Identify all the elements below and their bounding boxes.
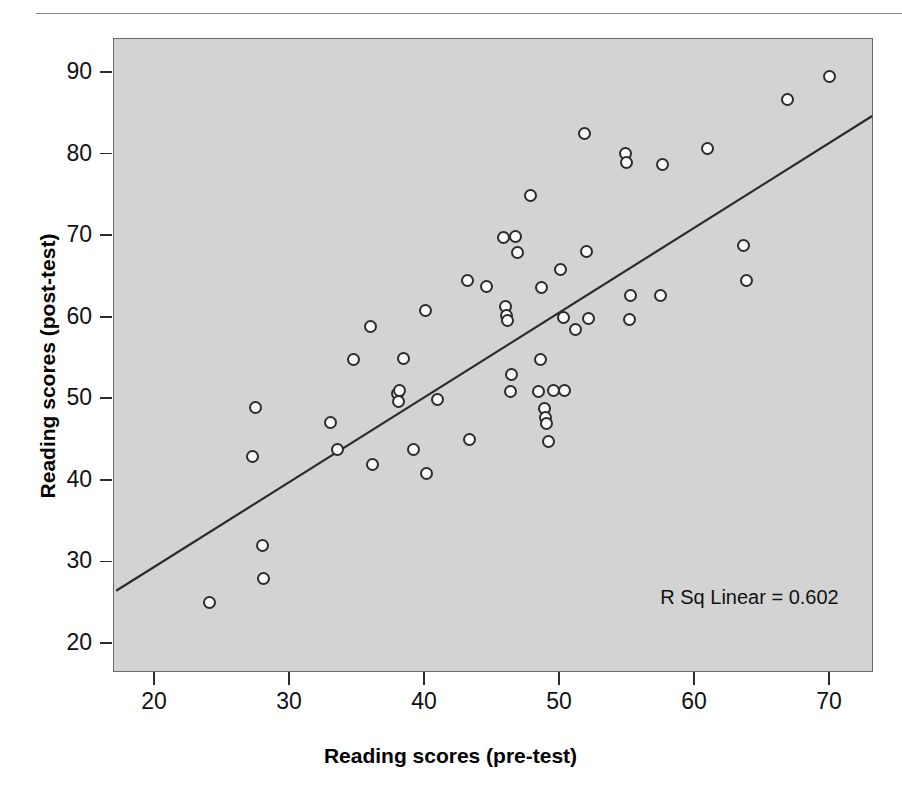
- data-point: [347, 353, 360, 366]
- scatter-chart: R Sq Linear = 0.602: [113, 38, 873, 672]
- y-tick-mark: [100, 642, 112, 644]
- x-tick-mark: [693, 672, 695, 685]
- header-divider: [36, 13, 902, 14]
- data-point: [461, 274, 474, 287]
- data-point: [420, 467, 433, 480]
- data-point: [569, 323, 582, 336]
- data-point: [823, 70, 836, 83]
- data-point: [535, 281, 548, 294]
- y-tick-mark: [100, 234, 112, 236]
- data-point: [740, 274, 753, 287]
- data-point: [364, 320, 377, 333]
- y-axis-title: Reading scores (post-test): [36, 56, 60, 676]
- data-point: [511, 246, 524, 259]
- data-point: [256, 539, 269, 552]
- data-point: [480, 280, 493, 293]
- data-point: [246, 450, 259, 463]
- data-point: [654, 289, 667, 302]
- y-tick-mark: [100, 561, 112, 563]
- y-tick-mark: [100, 71, 112, 73]
- data-point: [582, 312, 595, 325]
- x-tick-label: 30: [259, 690, 319, 713]
- data-point: [557, 311, 570, 324]
- data-point: [392, 395, 405, 408]
- x-tick-mark: [423, 672, 425, 685]
- y-tick-mark: [100, 397, 112, 399]
- x-tick-label: 60: [664, 690, 724, 713]
- data-point: [534, 353, 547, 366]
- x-tick-label: 70: [799, 690, 859, 713]
- data-point: [620, 156, 633, 169]
- x-tick-label: 50: [529, 690, 589, 713]
- r-squared-annotation: R Sq Linear = 0.602: [660, 586, 838, 609]
- data-point: [542, 435, 555, 448]
- plot-canvas: [113, 38, 873, 672]
- data-point: [554, 263, 567, 276]
- data-point: [578, 127, 591, 140]
- data-point: [580, 245, 593, 258]
- data-point: [419, 304, 432, 317]
- x-tick-mark: [828, 672, 830, 685]
- x-tick-mark: [288, 672, 290, 685]
- regression-line: [116, 116, 872, 591]
- data-point: [393, 384, 406, 397]
- data-point: [407, 443, 420, 456]
- x-tick-mark: [153, 672, 155, 685]
- data-point: [397, 352, 410, 365]
- x-tick-label: 20: [124, 690, 184, 713]
- x-tick-mark: [558, 672, 560, 685]
- data-point: [624, 289, 637, 302]
- data-point: [781, 93, 794, 106]
- x-axis-title: Reading scores (pre-test): [0, 744, 901, 768]
- data-point: [366, 458, 379, 471]
- y-tick-mark: [100, 153, 112, 155]
- data-point: [257, 572, 270, 585]
- y-tick-mark: [100, 316, 112, 318]
- page-header-remnant: [36, 0, 902, 11]
- data-point: [249, 401, 262, 414]
- x-tick-label: 40: [394, 690, 454, 713]
- data-point: [203, 596, 216, 609]
- y-tick-mark: [100, 479, 112, 481]
